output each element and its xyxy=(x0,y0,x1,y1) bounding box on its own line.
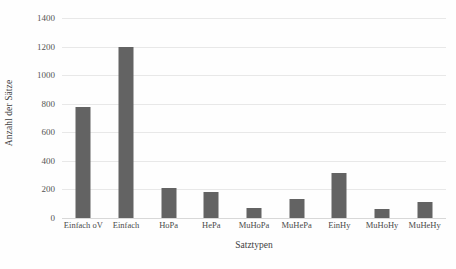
bar[interactable] xyxy=(332,173,347,218)
bar-slot xyxy=(62,18,105,218)
gridline-0 xyxy=(62,218,446,219)
x-axis-title: Satztypen xyxy=(62,240,446,250)
x-axis-tick-labels: Einfach oVEinfachHoPaHePaMuHoPaMuHePaEin… xyxy=(62,220,446,238)
x-tick-label: MuHoHy xyxy=(366,220,399,230)
bar[interactable] xyxy=(374,209,389,218)
bar[interactable] xyxy=(161,188,176,218)
x-tick-label: Einfach xyxy=(113,220,139,230)
bar-slot xyxy=(233,18,276,218)
x-tick-label: HePa xyxy=(202,220,220,230)
bar-slot xyxy=(105,18,148,218)
bar-chart: Anzahl der Sätze 02004006008001000120014… xyxy=(0,0,456,269)
bar[interactable] xyxy=(76,107,91,218)
y-tick-label: 1000 xyxy=(37,70,55,80)
y-tick-label: 600 xyxy=(42,127,56,137)
bar[interactable] xyxy=(246,208,261,218)
bar[interactable] xyxy=(289,199,304,218)
bar-slot xyxy=(318,18,361,218)
bar-slot xyxy=(275,18,318,218)
y-tick-label: 400 xyxy=(42,156,56,166)
y-axis-tick-labels: 0200400600800100012001400 xyxy=(18,0,60,225)
bar[interactable] xyxy=(118,47,133,218)
x-tick-label: MuHeHy xyxy=(409,220,441,230)
x-tick-label: MuHoPa xyxy=(239,220,270,230)
bar-slot xyxy=(190,18,233,218)
y-axis-title-label: Anzahl der Sätze xyxy=(4,79,14,146)
y-axis-title: Anzahl der Sätze xyxy=(0,0,18,225)
x-tick-label: MuHePa xyxy=(282,220,312,230)
bar-slot xyxy=(361,18,404,218)
y-tick-label: 200 xyxy=(42,184,56,194)
bar-slot xyxy=(147,18,190,218)
bar-slot xyxy=(403,18,446,218)
y-tick-label: 1200 xyxy=(37,42,55,52)
bars-group xyxy=(62,18,446,218)
x-tick-label: HoPa xyxy=(159,220,178,230)
y-tick-label: 0 xyxy=(51,213,56,223)
bar[interactable] xyxy=(417,202,432,218)
plot-area xyxy=(62,18,446,218)
x-tick-label: Einfach oV xyxy=(64,220,103,230)
x-tick-label: EinHy xyxy=(328,220,350,230)
y-tick-label: 1400 xyxy=(37,13,55,23)
bar[interactable] xyxy=(204,192,219,218)
y-tick-label: 800 xyxy=(42,99,56,109)
